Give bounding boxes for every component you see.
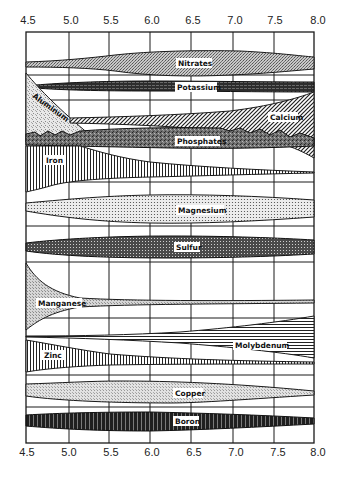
label-manganese: Manganese (38, 299, 86, 308)
label-boron: Boron (175, 417, 200, 426)
label-copper: Copper (175, 389, 205, 398)
label-sulfur: Sulfur (176, 243, 202, 252)
label-phosphates: Phosphates (177, 137, 227, 146)
label-molybdenum: Molybdenum (235, 341, 290, 350)
label-iron: Iron (46, 156, 63, 165)
nutrient-ph-chart: Nitrates Potassium Aluminum Calcium Phos… (0, 0, 346, 479)
label-calcium: Calcium (270, 113, 303, 122)
label-potassium: Potassium (177, 83, 221, 92)
label-magnesium: Magnesium (178, 206, 227, 215)
band-sulfur (26, 236, 314, 258)
label-nitrates: Nitrates (178, 59, 213, 68)
label-zinc: Zinc (44, 351, 62, 360)
